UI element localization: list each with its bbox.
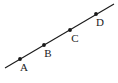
diagram-canvas: A B C D (0, 0, 118, 83)
point-a-label: A (20, 61, 28, 73)
point-b-label: B (44, 47, 51, 59)
point-c-label: C (71, 32, 78, 44)
geometry-diagram: A B C D (0, 0, 118, 83)
point-d-label: D (96, 16, 104, 28)
